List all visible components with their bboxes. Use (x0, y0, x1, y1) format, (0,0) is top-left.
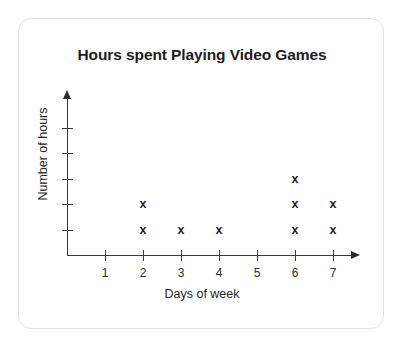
x-axis-tick (295, 250, 296, 261)
chart-card: Hours spent Playing Video Games Number o… (18, 18, 384, 329)
data-marker: x (133, 196, 153, 212)
x-axis-tick-label: 4 (207, 266, 231, 280)
x-axis-tick (219, 250, 220, 261)
x-axis-tick-label: 5 (245, 266, 269, 280)
data-marker: x (285, 222, 305, 238)
data-marker: x (323, 222, 343, 238)
plot-area: Number of hours Days of week 1234567 xxx… (19, 19, 385, 330)
x-axis-tick-label: 7 (321, 266, 345, 280)
y-axis-tick (62, 204, 73, 205)
y-axis-tick (62, 179, 73, 180)
x-axis-tick-label: 2 (131, 266, 155, 280)
x-axis-label: Days of week (19, 287, 385, 301)
data-marker: x (285, 171, 305, 187)
x-axis-tick (105, 250, 106, 261)
y-axis-label: Number of hours (36, 94, 50, 214)
y-axis-tick (62, 128, 73, 129)
x-axis-tick (333, 250, 334, 261)
data-marker: x (133, 222, 153, 238)
data-marker: x (171, 222, 191, 238)
data-marker: x (323, 196, 343, 212)
y-axis-line (67, 98, 68, 256)
y-axis-tick (62, 153, 73, 154)
x-axis-tick (143, 250, 144, 261)
x-axis-tick-label: 3 (169, 266, 193, 280)
x-axis-arrow-icon (351, 251, 360, 259)
y-axis-arrow-icon (63, 90, 71, 99)
x-axis-tick (181, 250, 182, 261)
x-axis-tick-label: 1 (93, 266, 117, 280)
x-axis-tick-label: 6 (283, 266, 307, 280)
data-marker: x (209, 222, 229, 238)
data-marker: x (285, 196, 305, 212)
y-axis-tick (62, 230, 73, 231)
x-axis-tick (257, 250, 258, 261)
x-axis-line (67, 255, 353, 256)
